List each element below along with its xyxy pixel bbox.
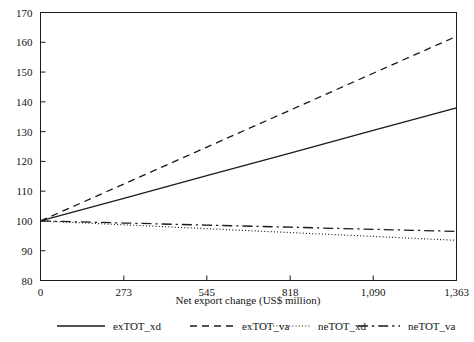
x-tick-label: 1,363 bbox=[444, 286, 469, 298]
y-tick-label: 120 bbox=[16, 155, 33, 167]
chart-figure: 8090100110120130140150160170 02735458181… bbox=[0, 0, 474, 342]
x-axis-title: Net export change (US$ million) bbox=[176, 294, 321, 307]
y-tick-label: 140 bbox=[16, 96, 33, 108]
chart-legend: exTOT_xdexTOT_vaneTOT_xdneTOT_va bbox=[57, 320, 456, 332]
y-tick-label: 80 bbox=[22, 275, 34, 287]
legend-label-exTOT_xd: exTOT_xd bbox=[113, 320, 162, 332]
y-tick-label: 160 bbox=[16, 36, 33, 48]
legend-label-neTOT_va: neTOT_va bbox=[408, 320, 456, 332]
series-line-neTOT_va bbox=[41, 221, 457, 231]
y-tick-label: 110 bbox=[16, 185, 33, 197]
y-tick-label: 150 bbox=[16, 66, 33, 78]
x-tick-label: 1,090 bbox=[361, 286, 386, 298]
x-tick-label: 273 bbox=[116, 286, 133, 298]
y-tick-label: 90 bbox=[22, 245, 34, 257]
series-group bbox=[41, 36, 457, 240]
plot-frame bbox=[41, 13, 457, 281]
y-axis: 8090100110120130140150160170 bbox=[16, 7, 46, 287]
line-chart-svg: 8090100110120130140150160170 02735458181… bbox=[0, 0, 474, 342]
y-tick-label: 130 bbox=[16, 126, 33, 138]
legend-label-exTOT_va: exTOT_va bbox=[242, 320, 290, 332]
series-line-exTOT_va bbox=[41, 36, 457, 221]
y-tick-label: 170 bbox=[16, 7, 33, 19]
series-line-exTOT_xd bbox=[41, 108, 457, 221]
y-tick-label: 100 bbox=[16, 215, 33, 227]
series-line-neTOT_xd bbox=[41, 221, 457, 240]
x-tick-label: 0 bbox=[38, 286, 44, 298]
